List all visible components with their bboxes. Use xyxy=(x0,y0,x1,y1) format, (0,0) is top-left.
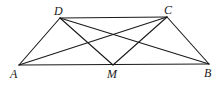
segment-dm xyxy=(60,18,113,65)
label-a: A xyxy=(9,67,18,81)
label-d: D xyxy=(53,4,63,18)
label-m: M xyxy=(106,67,118,81)
geometry-diagram: A D C M B xyxy=(0,0,223,85)
segment-ac xyxy=(19,17,167,65)
segment-cm xyxy=(113,17,167,65)
segment-dc xyxy=(60,17,167,18)
label-b: B xyxy=(204,66,212,80)
segment-db xyxy=(60,18,209,64)
label-c: C xyxy=(164,3,173,17)
